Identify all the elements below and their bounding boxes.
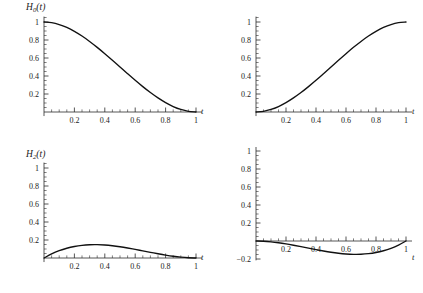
svg-text:1: 1 [35,18,39,27]
svg-text:0.2: 0.2 [281,116,291,125]
panel-h2-ylabel: H2(t) [26,150,46,161]
svg-text:1: 1 [35,164,39,173]
panel-h2-plot: 0.20.40.60.810.20.40.60.81 [0,147,212,293]
svg-text:0.2: 0.2 [29,90,39,99]
panel-h1: H1(t) t 0.20.40.60.810.20.40.60.81 [212,0,423,147]
panel-h2-xlabel: t [201,253,203,262]
panel-h3-plot: 0.20.40.60.81−0.20.20.40.60.81 [212,147,423,293]
panel-h1-xlabel: t [412,107,414,116]
svg-text:1: 1 [404,245,408,254]
svg-text:0.6: 0.6 [341,245,351,254]
svg-text:0.4: 0.4 [29,72,39,81]
svg-text:1: 1 [194,116,198,125]
panel-h0-ylabel: H0(t) [26,3,46,14]
svg-text:0.2: 0.2 [29,236,39,245]
svg-text:1: 1 [194,262,198,271]
svg-text:0.4: 0.4 [29,218,39,227]
svg-text:0.4: 0.4 [100,116,110,125]
svg-text:0.4: 0.4 [241,201,251,210]
panel-h3-xlabel: t [412,253,414,262]
svg-text:0.8: 0.8 [241,36,251,45]
svg-text:0.6: 0.6 [130,262,140,271]
svg-text:0.2: 0.2 [241,90,251,99]
svg-text:0.8: 0.8 [161,262,171,271]
svg-text:1: 1 [247,18,251,27]
svg-text:0.8: 0.8 [29,36,39,45]
svg-text:0.6: 0.6 [29,200,39,209]
panel-h0-plot: 0.20.40.60.810.20.40.60.81 [0,0,212,147]
panel-h2: H2(t) t 0.20.40.60.810.20.40.60.81 [0,147,212,293]
svg-text:0.6: 0.6 [29,54,39,63]
svg-text:0.6: 0.6 [341,116,351,125]
svg-text:0.8: 0.8 [241,165,251,174]
svg-text:1: 1 [404,116,408,125]
panel-h0-xlabel: t [201,107,203,116]
panel-h0: H0(t) t 0.20.40.60.810.20.40.60.81 [0,0,212,147]
svg-text:0.2: 0.2 [281,245,291,254]
svg-text:0.4: 0.4 [100,262,110,271]
svg-text:0.8: 0.8 [29,182,39,191]
panel-h3: H3(t) t 0.20.40.60.81−0.20.20.40.60.81 [212,147,423,293]
svg-text:−0.2: −0.2 [236,255,251,264]
svg-text:0.2: 0.2 [69,116,79,125]
figure-grid: H0(t) t 0.20.40.60.810.20.40.60.81 H1(t)… [0,0,423,293]
svg-text:1: 1 [247,147,251,156]
svg-text:0.8: 0.8 [371,116,381,125]
svg-text:0.2: 0.2 [241,219,251,228]
svg-text:0.6: 0.6 [130,116,140,125]
svg-text:0.2: 0.2 [69,262,79,271]
svg-text:0.4: 0.4 [311,116,321,125]
panel-h1-plot: 0.20.40.60.810.20.40.60.81 [212,0,423,147]
svg-text:0.6: 0.6 [241,54,251,63]
svg-text:0.4: 0.4 [241,72,251,81]
svg-text:0.8: 0.8 [161,116,171,125]
svg-text:0.6: 0.6 [241,183,251,192]
